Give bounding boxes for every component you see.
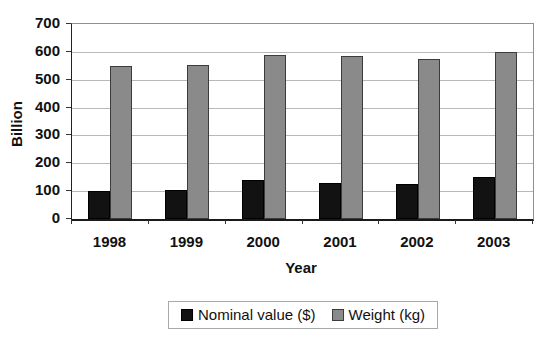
bar-weight-1998 (110, 66, 132, 219)
bar-nominal-value-2003 (473, 177, 495, 219)
bar-chart-figure: Billion 0100200300400500600700 199819992… (0, 0, 545, 345)
gridline-200 (72, 163, 533, 164)
x-tick-mark (302, 220, 303, 224)
y-tick-label-400: 400 (14, 99, 60, 115)
y-tick-mark (66, 79, 71, 80)
y-tick-label-200: 200 (14, 154, 60, 170)
x-tick-label-1999: 1999 (148, 233, 225, 250)
gridline-300 (72, 135, 533, 136)
gridline-500 (72, 80, 533, 81)
x-tick-label-2001: 2001 (302, 233, 379, 250)
gridline-100 (72, 191, 533, 192)
bar-weight-2003 (495, 52, 517, 219)
x-tick-mark (378, 220, 379, 224)
bar-nominal-value-2002 (396, 184, 418, 219)
x-tick-mark (532, 220, 533, 224)
x-axis-title: Year (285, 259, 317, 276)
legend-label: Weight (kg) (349, 306, 425, 323)
y-tick-mark (66, 23, 71, 24)
y-tick-label-700: 700 (14, 15, 60, 31)
y-tick-mark (66, 134, 71, 135)
x-tick-label-2002: 2002 (378, 233, 455, 250)
y-tick-label-600: 600 (14, 43, 60, 59)
legend-item-nominal-value: Nominal value ($) (181, 306, 316, 323)
y-tick-label-300: 300 (14, 126, 60, 142)
y-tick-mark (66, 162, 71, 163)
x-tick-label-2000: 2000 (225, 233, 302, 250)
y-tick-mark (66, 107, 71, 108)
legend-item-weight: Weight (kg) (332, 306, 425, 323)
gridline-600 (72, 52, 533, 53)
legend-swatch-icon (181, 309, 193, 321)
y-tick-mark (66, 51, 71, 52)
x-tick-label-2003: 2003 (455, 233, 532, 250)
x-tick-mark (71, 220, 72, 224)
x-tick-mark (455, 220, 456, 224)
gridline-400 (72, 108, 533, 109)
y-tick-mark (66, 190, 71, 191)
x-tick-mark (148, 220, 149, 224)
bar-weight-2001 (341, 56, 363, 219)
x-tick-mark (225, 220, 226, 224)
legend-swatch-icon (332, 309, 344, 321)
bar-nominal-value-2000 (242, 180, 264, 219)
legend: Nominal value ($)Weight (kg) (168, 301, 438, 329)
y-tick-label-100: 100 (14, 182, 60, 198)
y-tick-mark (66, 218, 71, 219)
bar-nominal-value-1999 (165, 190, 187, 219)
bar-nominal-value-2001 (319, 183, 341, 219)
bar-weight-2000 (264, 55, 286, 219)
y-tick-label-0: 0 (14, 210, 60, 226)
y-tick-label-500: 500 (14, 71, 60, 87)
plot-area (71, 23, 534, 221)
bar-nominal-value-1998 (88, 191, 110, 219)
bar-weight-2002 (418, 59, 440, 219)
bar-weight-1999 (187, 65, 209, 219)
x-tick-label-1998: 1998 (71, 233, 148, 250)
legend-label: Nominal value ($) (198, 306, 316, 323)
